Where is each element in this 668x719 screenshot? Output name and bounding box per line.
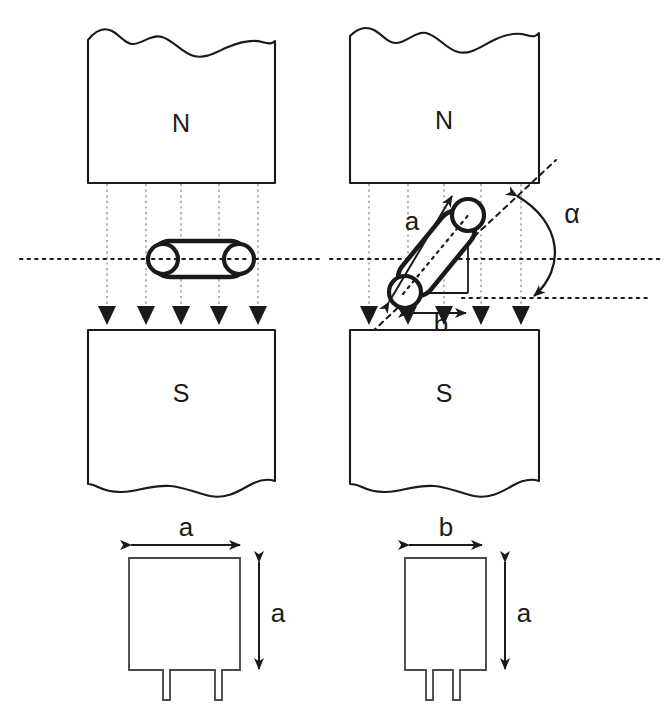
angle-alpha-label: α <box>564 199 580 229</box>
north-pole-left-outline <box>88 29 275 183</box>
bottom-right-width-dimension: b <box>409 512 482 545</box>
diagram-root: N S N <box>0 0 668 719</box>
bottom-left-height-label: a <box>271 598 286 628</box>
bottom-right-height-dimension: a <box>505 562 532 669</box>
specimen-tilted-cap-upper <box>452 199 484 231</box>
specimen-tilted <box>389 199 484 308</box>
field-arrowhead-1 <box>98 306 116 325</box>
left-panel-south-pole: S <box>88 330 275 497</box>
field-arrowhead-3 <box>172 306 190 325</box>
bottom-right-height-label: a <box>517 598 532 628</box>
field-arrowhead-4 <box>210 306 228 325</box>
right-panel-north-pole: N <box>350 28 539 183</box>
angle-alpha-arc <box>517 196 555 296</box>
bottom-left-cross-section: a a <box>129 512 286 700</box>
right-field-arrowhead-1 <box>360 306 378 325</box>
bottom-right-cross-section: b a <box>405 512 532 700</box>
north-pole-left-label: N <box>172 109 190 137</box>
south-pole-left-label: S <box>173 379 190 407</box>
left-panel-north-pole: N <box>88 29 275 183</box>
bottom-left-shape-outline <box>129 558 240 700</box>
right-panel-south-pole: S <box>350 330 539 497</box>
south-pole-right-outline <box>350 330 539 497</box>
right-field-arrowhead-4 <box>472 306 490 325</box>
dimension-a-tilted-label: a <box>405 206 420 236</box>
field-arrowhead-5 <box>249 306 267 325</box>
south-pole-right-label: S <box>436 379 453 407</box>
bottom-left-height-dimension: a <box>259 562 286 669</box>
magnetic-pole-diagram: N S N <box>0 0 668 719</box>
bottom-left-width-dimension: a <box>131 512 240 545</box>
bottom-right-shape-outline <box>405 558 486 700</box>
angle-alpha-annotation: α <box>517 196 580 296</box>
right-field-arrowhead-5 <box>512 306 530 325</box>
bottom-right-width-label: b <box>439 512 453 542</box>
south-pole-left-outline <box>88 330 275 497</box>
field-arrowhead-2 <box>137 306 155 325</box>
north-pole-right-label: N <box>435 106 453 134</box>
bottom-left-width-label: a <box>179 512 194 542</box>
specimen-horizontal <box>148 241 254 277</box>
